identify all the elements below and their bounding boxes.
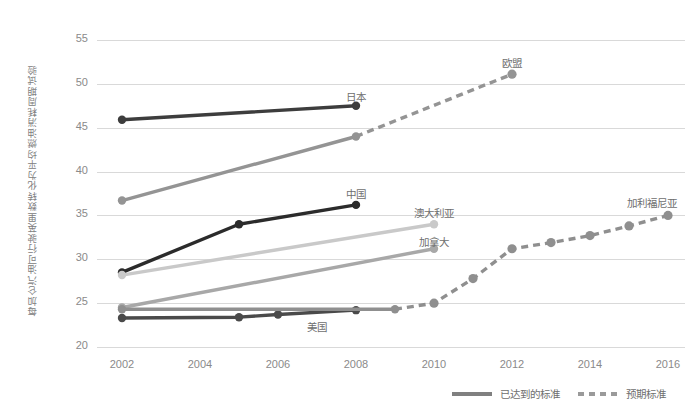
series-label-中国: 中国 — [346, 186, 366, 201]
series-6-expected-point — [585, 231, 594, 240]
plot-area — [0, 0, 687, 407]
series-label-澳大利亚: 澳大利亚 — [414, 205, 454, 220]
series-6-expected-point — [663, 211, 672, 220]
legend-dashed-line-icon — [578, 392, 618, 396]
series-label-加利福尼亚: 加利福尼亚 — [627, 195, 677, 210]
series-label-加拿大: 加拿大 — [419, 234, 449, 249]
series-6-achieved-point — [118, 305, 126, 313]
series-6-expected-point — [507, 244, 516, 253]
series-1-achieved-point — [118, 196, 126, 204]
series-5-achieved-point — [274, 310, 282, 318]
legend-label-expected: 预期标准 — [626, 386, 666, 401]
series-label-美国: 美国 — [307, 319, 327, 334]
series-6-expected-point — [624, 221, 633, 230]
legend-label-achieved: 已达到的标准 — [500, 386, 560, 401]
legend-item-achieved[interactable]: 已达到的标准 — [452, 386, 560, 401]
legend-item-expected[interactable]: 预期标准 — [578, 386, 666, 401]
series-label-日本: 日本 — [346, 89, 366, 104]
series-5-achieved-point — [235, 313, 243, 321]
series-6-expected-point — [429, 299, 438, 308]
series-4-achieved-line — [122, 249, 434, 308]
series-6-achieved-point — [391, 305, 399, 313]
series-3-achieved-point — [118, 271, 126, 279]
series-0-achieved-point — [118, 116, 126, 124]
series-6-expected-point — [468, 274, 477, 283]
series-1-expected-point — [507, 70, 516, 79]
series-3-achieved-line — [122, 224, 434, 275]
series-1-achieved-line — [122, 136, 356, 200]
series-6-expected-point — [546, 238, 555, 247]
series-0-achieved-line — [122, 106, 356, 120]
series-3-achieved-point — [430, 220, 438, 228]
series-1-expected-line — [356, 74, 512, 136]
series-2-achieved-line — [122, 205, 356, 273]
legend-solid-line-icon — [452, 392, 492, 396]
series-2-achieved-point — [352, 201, 360, 209]
series-label-欧盟: 欧盟 — [502, 55, 522, 70]
fuel-economy-standards-chart: 每加仑汽油可行驶英里数转化为平均燃油消耗周期试验 202530354045505… — [0, 0, 687, 407]
series-2-achieved-point — [235, 220, 243, 228]
series-1-achieved-point — [352, 132, 360, 140]
series-5-achieved-point — [118, 314, 126, 322]
